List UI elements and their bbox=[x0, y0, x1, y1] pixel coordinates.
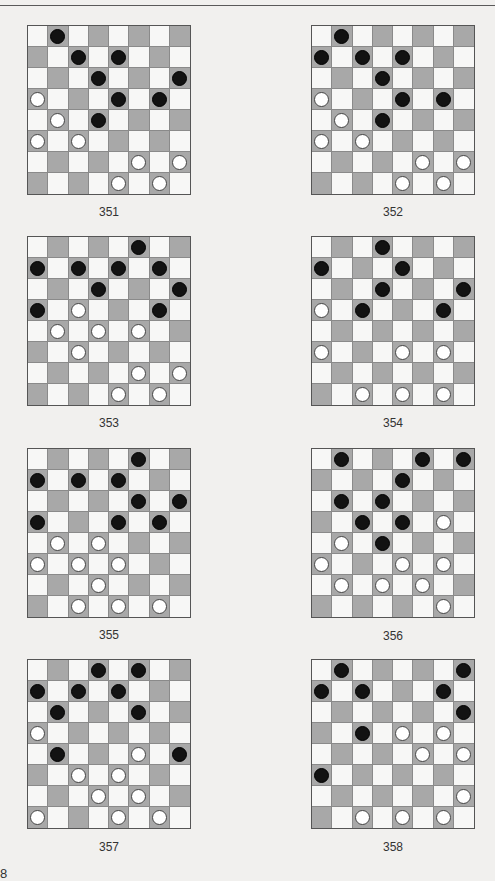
dark-square bbox=[332, 786, 352, 807]
dark-square bbox=[170, 152, 190, 173]
light-square bbox=[393, 279, 413, 300]
white-checker-piece bbox=[111, 599, 126, 614]
dark-square bbox=[48, 237, 68, 258]
dark-square bbox=[28, 807, 48, 828]
white-checker-piece bbox=[111, 810, 126, 825]
dark-square bbox=[353, 173, 373, 194]
light-square bbox=[150, 321, 170, 342]
dark-square bbox=[170, 660, 190, 681]
dark-square bbox=[413, 363, 433, 384]
dark-square bbox=[332, 237, 352, 258]
light-square bbox=[69, 660, 89, 681]
light-square bbox=[48, 807, 68, 828]
white-checker-piece bbox=[71, 134, 86, 149]
light-square bbox=[393, 702, 413, 723]
dark-square bbox=[332, 660, 352, 681]
dark-square bbox=[48, 702, 68, 723]
black-checker-piece bbox=[71, 261, 86, 276]
light-square bbox=[413, 554, 433, 575]
dark-square bbox=[393, 807, 413, 828]
white-checker-piece bbox=[30, 92, 45, 107]
black-checker-piece bbox=[111, 92, 126, 107]
dark-square bbox=[170, 110, 190, 131]
light-square bbox=[454, 723, 474, 744]
white-checker-piece bbox=[111, 768, 126, 783]
dark-square bbox=[373, 110, 393, 131]
light-square bbox=[69, 744, 89, 765]
dark-square bbox=[150, 512, 170, 533]
dark-square bbox=[413, 321, 433, 342]
dark-square bbox=[353, 470, 373, 491]
dark-square bbox=[69, 384, 89, 405]
black-checker-piece bbox=[91, 113, 106, 128]
light-square bbox=[150, 744, 170, 765]
dark-square bbox=[69, 596, 89, 617]
dark-square bbox=[393, 47, 413, 68]
dark-square bbox=[48, 449, 68, 470]
black-checker-piece bbox=[71, 684, 86, 699]
dark-square bbox=[312, 47, 332, 68]
black-checker-piece bbox=[172, 71, 187, 86]
light-square bbox=[353, 533, 373, 554]
light-square bbox=[109, 110, 129, 131]
light-square bbox=[109, 702, 129, 723]
light-square bbox=[393, 491, 413, 512]
light-square bbox=[332, 765, 352, 786]
dark-square bbox=[312, 258, 332, 279]
light-square bbox=[413, 807, 433, 828]
light-square bbox=[150, 237, 170, 258]
dark-square bbox=[28, 512, 48, 533]
light-square bbox=[454, 300, 474, 321]
puzzle-number: 356 bbox=[311, 629, 475, 643]
light-square bbox=[434, 237, 454, 258]
dark-square bbox=[150, 89, 170, 110]
light-square bbox=[170, 554, 190, 575]
light-square bbox=[109, 786, 129, 807]
light-square bbox=[48, 47, 68, 68]
light-square bbox=[170, 47, 190, 68]
light-square bbox=[454, 173, 474, 194]
black-checker-piece bbox=[30, 473, 45, 488]
white-checker-piece bbox=[131, 747, 146, 762]
light-square bbox=[312, 321, 332, 342]
light-square bbox=[454, 807, 474, 828]
dark-square bbox=[434, 258, 454, 279]
light-square bbox=[69, 449, 89, 470]
dark-square bbox=[413, 744, 433, 765]
dark-square bbox=[332, 152, 352, 173]
dark-square bbox=[129, 491, 149, 512]
black-checker-piece bbox=[314, 684, 329, 699]
light-square bbox=[373, 596, 393, 617]
light-square bbox=[413, 47, 433, 68]
dark-square bbox=[150, 47, 170, 68]
light-square bbox=[129, 384, 149, 405]
dark-square bbox=[393, 596, 413, 617]
dark-square bbox=[332, 533, 352, 554]
dark-square bbox=[312, 554, 332, 575]
white-checker-piece bbox=[131, 324, 146, 339]
light-square bbox=[312, 449, 332, 470]
black-checker-piece bbox=[375, 240, 390, 255]
dark-square bbox=[332, 491, 352, 512]
dark-square bbox=[393, 470, 413, 491]
light-square bbox=[28, 744, 48, 765]
light-square bbox=[48, 89, 68, 110]
black-checker-piece bbox=[456, 282, 471, 297]
dark-square bbox=[109, 765, 129, 786]
dark-square bbox=[312, 173, 332, 194]
dark-square bbox=[373, 321, 393, 342]
dark-square bbox=[454, 786, 474, 807]
black-checker-piece bbox=[456, 663, 471, 678]
dark-square bbox=[170, 279, 190, 300]
dark-square bbox=[393, 89, 413, 110]
dark-square bbox=[393, 765, 413, 786]
dark-square bbox=[28, 300, 48, 321]
light-square bbox=[170, 89, 190, 110]
black-checker-piece bbox=[172, 494, 187, 509]
black-checker-piece bbox=[355, 684, 370, 699]
light-square bbox=[353, 449, 373, 470]
dark-square bbox=[150, 681, 170, 702]
black-checker-piece bbox=[131, 494, 146, 509]
dark-square bbox=[454, 533, 474, 554]
black-checker-piece bbox=[375, 494, 390, 509]
